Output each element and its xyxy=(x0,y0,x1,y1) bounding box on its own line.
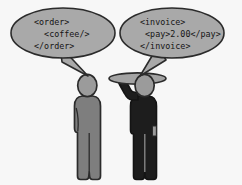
customer-body xyxy=(75,96,101,180)
invoice-bubble-line-3: </invoice> xyxy=(140,41,190,51)
waiter-head xyxy=(135,74,154,96)
order-bubble[interactable]: <order> <coffee/> </order> xyxy=(11,8,115,76)
waiter-body xyxy=(131,96,157,180)
customer-head xyxy=(78,74,97,96)
order-bubble-line-2: <coffee/> xyxy=(34,29,89,39)
invoice-bubble-line-1: <invoice> xyxy=(140,17,185,27)
waiter-figure xyxy=(109,73,166,180)
order-bubble-line-3: </order> xyxy=(34,41,74,51)
invoice-bubble-line-2: <pay>2.00</pay> xyxy=(140,29,221,39)
customer-figure xyxy=(75,74,101,179)
illustration-svg: <order> <coffee/> </order> <invoice> <pa… xyxy=(0,0,242,185)
order-bubble-line-1: <order> xyxy=(34,17,69,27)
scene-canvas: <order> <coffee/> </order> <invoice> <pa… xyxy=(0,0,242,185)
waiter-cuff xyxy=(152,126,156,136)
invoice-bubble[interactable]: <invoice> <pay>2.00</pay> </invoice> xyxy=(120,8,224,76)
